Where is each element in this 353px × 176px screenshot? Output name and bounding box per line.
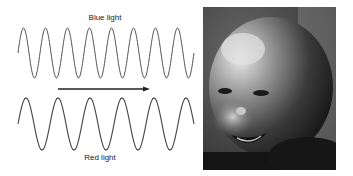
red-light-wave <box>18 98 194 150</box>
blue-light-label: Blue light <box>89 13 122 22</box>
wave-canvas <box>0 0 200 176</box>
direction-arrow <box>58 87 150 92</box>
baby-photo-illustration <box>203 7 336 170</box>
red-light-label: Red light <box>84 153 116 162</box>
blue-light-wave <box>18 28 194 78</box>
baby-photo <box>203 7 336 170</box>
light-wave-diagram: Blue light Red light <box>0 0 200 176</box>
